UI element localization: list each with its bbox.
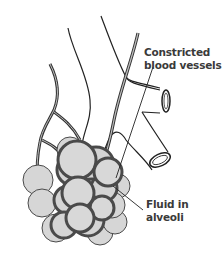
label-line-2: blood vessels (144, 59, 222, 72)
label-fluid-in-alveoli: Fluid in alveoli (146, 198, 189, 223)
label-line-1: Constricted (144, 46, 222, 59)
label-line-2: alveoli (146, 211, 189, 224)
alveoli-diagram (0, 0, 223, 253)
label-constricted-blood-vessels: Constricted blood vessels (144, 46, 222, 71)
bronchiole-opening-lower (147, 150, 172, 170)
label-line-1: Fluid in (146, 198, 189, 211)
